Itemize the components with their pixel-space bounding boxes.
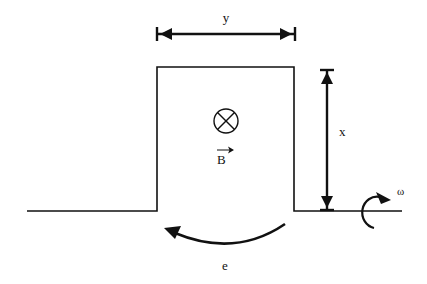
field-vector-label: B bbox=[217, 147, 234, 168]
angular-velocity-label: ω bbox=[397, 185, 404, 197]
emf-arrow bbox=[164, 224, 285, 244]
width-label: y bbox=[223, 10, 230, 25]
wire-loop bbox=[27, 67, 402, 211]
height-label: x bbox=[339, 124, 346, 139]
emf-label: e bbox=[222, 258, 228, 273]
width-dimension-arrow bbox=[157, 27, 295, 41]
field-into-page-icon bbox=[214, 109, 238, 133]
rotation-arrow-icon bbox=[362, 192, 391, 228]
height-dimension-arrow bbox=[320, 70, 334, 210]
field-label: B bbox=[217, 152, 226, 167]
loop-diagram: y x B e ω bbox=[0, 0, 427, 284]
